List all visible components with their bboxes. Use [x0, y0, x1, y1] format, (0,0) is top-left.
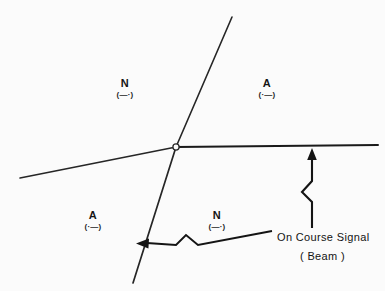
quadrant-letter: N: [117, 78, 134, 89]
quadrant-label-upper-right: A (·—): [259, 78, 276, 99]
beam-lines-layer: [0, 0, 385, 291]
quadrant-letter: A: [85, 210, 102, 221]
quadrant-morse-code: (·—): [259, 91, 276, 99]
lower-beam-leader-arrow: [136, 231, 272, 248]
quadrant-morse-code: (—·): [117, 91, 134, 99]
course-line-shallow-right: [176, 145, 378, 147]
quadrant-morse-code: (—·): [209, 223, 226, 231]
course-line-steep-lower: [133, 147, 176, 283]
beam-sublabel: ( Beam ): [300, 250, 345, 262]
quadrant-letter: N: [209, 210, 226, 221]
station-marker-icon: [173, 144, 179, 150]
quadrant-letter: A: [259, 78, 276, 89]
course-line-steep-upper: [176, 17, 232, 147]
radio-range-diagram: N (—·) A (·—) A (·—) N (—·) On Course Si…: [0, 0, 385, 291]
quadrant-label-lower-right: N (—·): [209, 210, 226, 231]
quadrant-label-lower-left: A (·—): [85, 210, 102, 231]
quadrant-morse-code: (·—): [85, 223, 102, 231]
on-course-signal-label: On Course Signal: [277, 231, 369, 243]
quadrant-label-upper-left: N (—·): [117, 78, 134, 99]
course-line-shallow-left: [20, 147, 176, 178]
right-beam-leader-arrow: [302, 148, 317, 228]
